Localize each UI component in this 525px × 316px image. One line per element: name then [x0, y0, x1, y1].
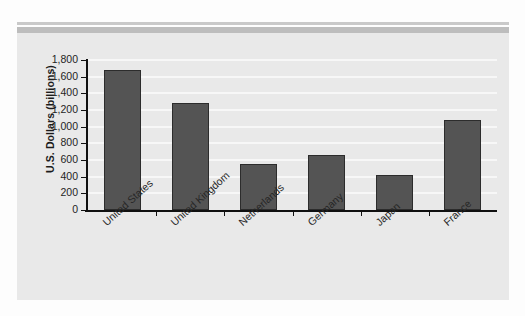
y-tick-mark	[81, 60, 87, 61]
y-tick-mark	[81, 143, 87, 144]
x-tick-mark	[224, 211, 225, 216]
y-tick-mark	[81, 110, 87, 111]
y-tick-mark	[81, 193, 87, 194]
gridline	[88, 109, 497, 111]
bar	[444, 120, 481, 210]
y-tick-label: 600	[32, 153, 78, 165]
y-tick-labels-group: 02004006008001,0001,2001,4001,6001,800	[30, 60, 78, 210]
gridline	[88, 176, 497, 178]
chart-figure: U.S. Dollars (billions) 02004006008001,0…	[0, 0, 525, 316]
y-tick-label: 1,200	[32, 103, 78, 115]
y-tick-mark	[81, 93, 87, 94]
x-tick-mark	[429, 211, 430, 216]
x-axis-line	[85, 210, 497, 212]
plot-area: 02004006008001,0001,2001,4001,6001,800 U…	[88, 60, 497, 210]
gridline	[88, 126, 497, 128]
y-tick-label: 400	[32, 170, 78, 182]
y-axis-line	[86, 59, 88, 211]
gridline	[88, 159, 497, 161]
y-tick-label: 1,000	[32, 120, 78, 132]
x-tick-mark	[293, 211, 294, 216]
x-tick-mark	[361, 211, 362, 216]
y-tick-mark	[81, 77, 87, 78]
y-tick-label: 200	[32, 186, 78, 198]
y-tick-mark	[81, 177, 87, 178]
y-tick-label: 1,400	[32, 86, 78, 98]
gridline	[88, 76, 497, 78]
y-tick-label: 0	[32, 203, 78, 215]
y-tick-mark	[81, 127, 87, 128]
y-tick-mark	[81, 160, 87, 161]
x-tick-mark	[156, 211, 157, 216]
gridline	[88, 192, 497, 194]
gridline	[88, 142, 497, 144]
chart-panel: U.S. Dollars (billions) 02004006008001,0…	[17, 33, 509, 300]
decorative-rule-top	[17, 22, 509, 25]
y-tick-mark	[81, 210, 87, 211]
y-tick-label: 800	[32, 136, 78, 148]
y-tick-label: 1,800	[32, 53, 78, 65]
gridline	[88, 59, 497, 61]
y-tick-label: 1,600	[32, 70, 78, 82]
gridline	[88, 92, 497, 94]
